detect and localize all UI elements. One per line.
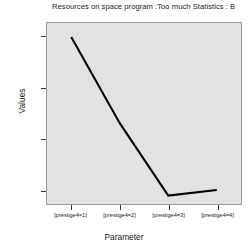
x-tick-mark — [169, 205, 170, 210]
plot-svg — [47, 23, 241, 204]
x-tick-mark — [120, 205, 121, 210]
x-tick-label: [prestige4=4] — [187, 212, 249, 218]
x-tick-mark — [218, 205, 219, 210]
plot-area — [46, 22, 242, 205]
chart-title: Resources on space program :Too much Sta… — [52, 2, 248, 12]
data-series-line — [71, 37, 217, 196]
line-chart: Resources on space program :Too much Sta… — [0, 0, 248, 247]
x-tick-mark — [71, 205, 72, 210]
y-axis-title: Values — [17, 71, 27, 131]
x-axis-title: Parameter — [0, 232, 248, 242]
